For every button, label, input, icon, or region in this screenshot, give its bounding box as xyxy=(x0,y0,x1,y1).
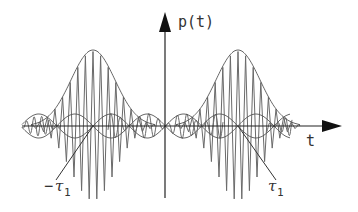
t-axis-arrow-icon xyxy=(322,120,342,132)
p-axis-arrow-icon xyxy=(159,12,171,32)
neg-tau1-prefix: − xyxy=(44,177,53,195)
x-axis-label: t xyxy=(306,132,315,150)
pos-tau1-symbol: τ xyxy=(268,177,277,195)
y-axis-label: p(t) xyxy=(178,13,214,31)
neg-tau1-symbol: τ xyxy=(55,177,64,195)
pos-tau1-subscript: 1 xyxy=(277,186,284,199)
neg-tau1-label: − τ 1 xyxy=(44,177,71,199)
neg-tau1-subscript: 1 xyxy=(64,186,71,199)
pos-tau1-label: τ 1 xyxy=(268,177,284,199)
pulse-diagram: p(t) t − τ 1 τ 1 xyxy=(0,0,358,212)
